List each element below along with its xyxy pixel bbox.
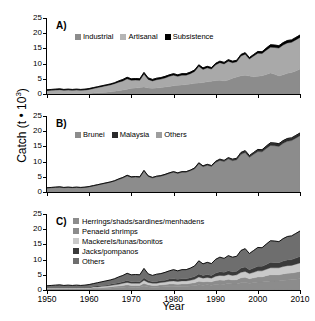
y-tick-mark — [43, 48, 46, 49]
panel-a-legend: IndustrialArtisanalSubsistence — [75, 32, 217, 41]
y-tick-mark — [43, 131, 46, 132]
legend-swatch-icon — [73, 228, 79, 234]
y-tick-label: 5 — [20, 271, 42, 279]
legend-label: Penaeid shrimps — [82, 227, 138, 236]
x-tick-mark — [131, 95, 132, 98]
y-tick-mark — [43, 229, 46, 230]
legend-label: Subsistence — [173, 32, 214, 41]
panel-c-legend: Herrings/shads/sardines/menhadensPenaeid… — [73, 216, 204, 266]
panel-b: 2520151050 B) BruneiMalaysiaOthers — [0, 104, 315, 204]
y-tick-label: 10 — [20, 60, 42, 68]
x-tick-mark — [89, 193, 90, 196]
x-axis-label: Year — [47, 300, 300, 312]
legend-label: Malaysia — [120, 130, 150, 139]
legend-item: Industrial — [75, 32, 113, 41]
y-tick-label: 15 — [20, 142, 42, 150]
panel-b-plot-area — [47, 116, 300, 192]
panel-a-y-axis — [46, 18, 47, 95]
y-tick-label: 15 — [20, 44, 42, 52]
y-tick-label: 20 — [20, 127, 42, 135]
x-tick-mark — [216, 193, 217, 196]
y-tick-label: 25 — [20, 14, 42, 22]
y-tick-label: 0 — [20, 188, 42, 196]
y-tick-label: 0 — [20, 90, 42, 98]
y-tick-label: 15 — [20, 240, 42, 248]
y-tick-mark — [43, 94, 46, 95]
y-tick-label: 10 — [20, 158, 42, 166]
x-tick-mark — [131, 193, 132, 196]
legend-item: Others — [73, 256, 204, 266]
legend-item: Subsistence — [165, 32, 214, 41]
panel-a: 2520151050 A) IndustrialArtisanalSubsist… — [0, 6, 315, 106]
legend-label: Brunei — [83, 130, 105, 139]
x-tick-mark — [47, 95, 48, 98]
panel-b-letter: B) — [56, 119, 67, 129]
y-tick-mark — [43, 146, 46, 147]
area-series — [47, 136, 300, 192]
legend-item: Malaysia — [112, 130, 150, 139]
x-tick-mark — [300, 193, 301, 196]
legend-item: Brunei — [75, 130, 105, 139]
panel-a-plot-area — [47, 18, 300, 94]
x-tick-mark — [47, 193, 48, 196]
y-tick-mark — [43, 192, 46, 193]
legend-label: Mackerels/tunas/bonitos — [82, 237, 163, 246]
legend-swatch-icon — [73, 248, 79, 254]
y-tick-mark — [43, 79, 46, 80]
legend-swatch-icon — [75, 132, 81, 138]
y-tick-label: 10 — [20, 256, 42, 264]
x-tick-mark — [216, 95, 217, 98]
x-tick-mark — [174, 193, 175, 196]
legend-item: Others — [156, 130, 187, 139]
legend-label: Artisanal — [128, 32, 157, 41]
x-tick-mark — [258, 95, 259, 98]
y-tick-label: 5 — [20, 75, 42, 83]
legend-item: Herrings/shads/sardines/menhadens — [73, 216, 204, 226]
y-tick-mark — [43, 18, 46, 19]
legend-swatch-icon — [165, 34, 171, 40]
y-tick-mark — [43, 244, 46, 245]
legend-item: Mackerels/tunas/bonitos — [73, 236, 204, 246]
legend-label: Industrial — [83, 32, 113, 41]
legend-label: Jacks/pompanos — [82, 247, 138, 256]
y-tick-label: 25 — [20, 210, 42, 218]
y-tick-mark — [43, 116, 46, 117]
legend-item: Penaeid shrimps — [73, 226, 204, 236]
legend-swatch-icon — [120, 34, 126, 40]
legend-label: Herrings/shads/sardines/menhadens — [82, 217, 204, 226]
stacked-area-chart — [47, 18, 300, 94]
legend-swatch-icon — [112, 132, 118, 138]
legend-item: Artisanal — [120, 32, 157, 41]
y-tick-label: 25 — [20, 112, 42, 120]
legend-item: Jacks/pompanos — [73, 246, 204, 256]
legend-label: Others — [164, 130, 187, 139]
figure: Catch (t • 103) 2520151050 A) Industrial… — [0, 0, 315, 321]
panel-b-y-axis — [46, 116, 47, 193]
stacked-area-chart — [47, 116, 300, 192]
x-tick-mark — [258, 193, 259, 196]
y-tick-mark — [43, 177, 46, 178]
panel-b-legend: BruneiMalaysiaOthers — [75, 130, 191, 139]
panel-a-letter: A) — [56, 21, 67, 31]
x-tick-mark — [174, 95, 175, 98]
legend-swatch-icon — [75, 34, 81, 40]
legend-label: Others — [82, 257, 105, 266]
y-tick-mark — [43, 64, 46, 65]
legend-swatch-icon — [156, 132, 162, 138]
x-tick-mark — [300, 95, 301, 98]
y-tick-mark — [43, 33, 46, 34]
x-tick-mark — [89, 95, 90, 98]
y-tick-mark — [43, 275, 46, 276]
y-tick-mark — [43, 290, 46, 291]
legend-swatch-icon — [73, 238, 79, 244]
y-tick-label: 5 — [20, 173, 42, 181]
y-tick-mark — [43, 214, 46, 215]
legend-swatch-icon — [73, 218, 79, 224]
y-tick-mark — [43, 260, 46, 261]
y-tick-mark — [43, 162, 46, 163]
y-tick-label: 20 — [20, 225, 42, 233]
panel-c-letter: C) — [56, 217, 67, 227]
y-tick-label: 0 — [20, 286, 42, 294]
panel-c-y-axis — [46, 214, 47, 291]
y-tick-label: 20 — [20, 29, 42, 37]
